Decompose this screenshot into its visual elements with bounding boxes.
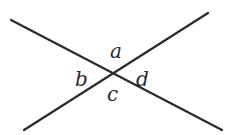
line-1 <box>11 20 222 130</box>
angle-label-a: a <box>110 39 122 63</box>
intersecting-lines-diagram: a b c d <box>0 0 234 135</box>
angle-label-c: c <box>107 82 118 106</box>
angle-label-b: b <box>75 67 88 91</box>
line-2 <box>24 13 208 130</box>
angle-label-d: d <box>136 67 149 91</box>
